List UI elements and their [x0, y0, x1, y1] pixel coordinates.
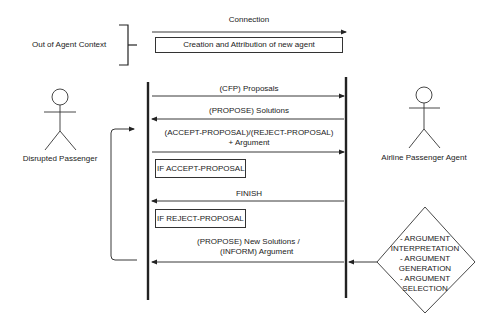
- decision-line: GENERATION: [385, 264, 465, 274]
- message-finish-label: FINISH: [152, 189, 346, 199]
- actor-airline-agent-icon: [409, 87, 440, 148]
- actor-disrupted-passenger-icon: [44, 89, 76, 150]
- loop-arrow: [111, 129, 137, 260]
- decision-line: - ARGUMENT: [385, 274, 465, 284]
- creation-box-label: Creation and Attribution of new agent: [183, 40, 315, 49]
- condition-accept-box: IF ACCEPT-PROPOSAL: [155, 159, 246, 178]
- decision-text: - ARGUMENT INTERPRETATION - ARGUMENT GEN…: [385, 234, 465, 294]
- context-bracket: [119, 25, 137, 65]
- decision-line: - ARGUMENT: [385, 234, 465, 244]
- message-new-solutions-label-2: (INFORM) Argument: [220, 247, 293, 257]
- message-cfp-label: (CFP) Proposals: [152, 84, 346, 94]
- decision-line: - ARGUMENT: [385, 254, 465, 264]
- decision-line: SELECTION: [385, 284, 465, 294]
- message-new-solutions-label-1: (PROPOSE) New Solutions /: [197, 237, 300, 247]
- out-of-context-label: Out of Agent Context: [32, 40, 106, 50]
- decision-line: INTERPRETATION: [385, 244, 465, 254]
- message-accept-reject-label-2: + Argument: [152, 138, 346, 148]
- condition-accept-label: IF ACCEPT-PROPOSAL: [157, 164, 245, 173]
- actor-disrupted-passenger-label: Disrupted Passenger: [10, 154, 110, 164]
- condition-reject-box: IF REJECT-PROPOSAL: [155, 209, 246, 228]
- condition-reject-label: IF REJECT-PROPOSAL: [157, 214, 244, 223]
- message-propose-label: (PROPOSE) Solutions: [152, 106, 346, 116]
- message-accept-reject-label-1: (ACCEPT-PROPOSAL)/(REJECT-PROPOSAL): [152, 128, 346, 138]
- actor-airline-agent-label: Airline Passenger Agent: [374, 153, 474, 163]
- connection-label: Connection: [152, 15, 346, 25]
- creation-box: Creation and Attribution of new agent: [155, 37, 343, 53]
